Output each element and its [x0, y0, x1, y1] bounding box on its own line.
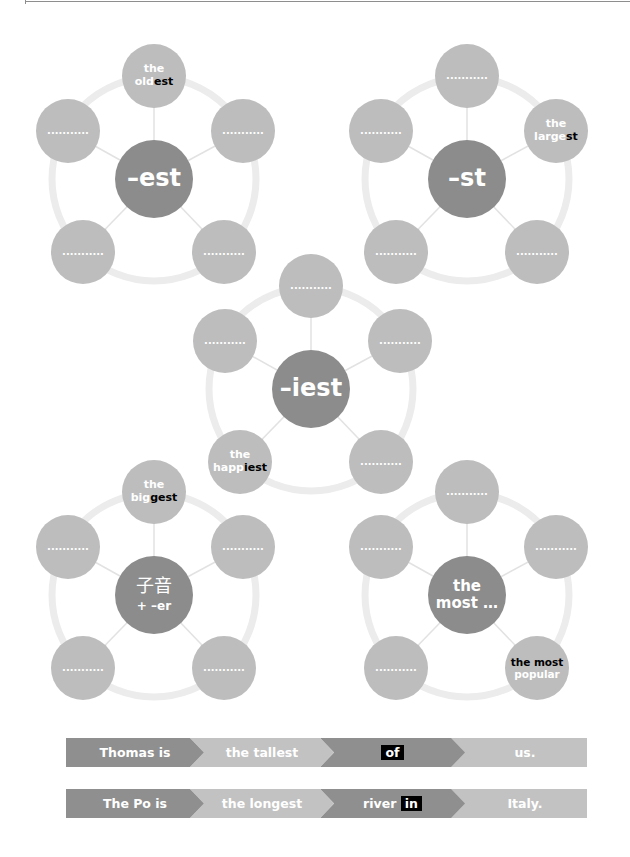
word-suffix: est: [154, 75, 173, 88]
hub-line-1: the: [453, 578, 481, 595]
top-border-line: [25, 1, 630, 2]
segment-preposition: of: [320, 738, 465, 767]
satellite-upper-right-blank[interactable]: ...........: [211, 515, 275, 579]
superlative-text: the longest: [222, 796, 302, 811]
top-border-tick: [25, 0, 26, 4]
hub-consonant-er: 子音 + –er: [115, 556, 193, 634]
hub-st: –st: [428, 140, 506, 218]
example-word: largest: [534, 131, 578, 144]
word-stem: large: [534, 130, 566, 143]
sentence-banner-2: Italy. river in the longest The Po is: [66, 789, 587, 818]
satellite-lower-left-blank[interactable]: ...........: [51, 220, 115, 284]
segment-end: us.: [451, 738, 587, 767]
segment-preposition: river in: [320, 789, 465, 818]
satellite-top-blank[interactable]: ...........: [279, 254, 343, 318]
hub-line-2: most …: [436, 595, 498, 612]
example-word: oldest: [135, 76, 173, 89]
sentence-end: us.: [514, 745, 535, 760]
word-suffix: gest: [150, 491, 177, 504]
segment-end: Italy.: [451, 789, 587, 818]
hub-est: –est: [115, 140, 193, 218]
example-adjective: popular: [514, 668, 560, 680]
superlative-text: the tallest: [226, 745, 299, 760]
satellite-top-blank[interactable]: ...........: [435, 460, 499, 524]
preposition-highlight: in: [401, 796, 422, 811]
segment-superlative: the longest: [190, 789, 334, 818]
sentence-end: Italy.: [507, 796, 542, 811]
satellite-top-example: the biggest: [122, 460, 186, 524]
preposition-highlight: of: [381, 745, 403, 760]
example-the-most: the most: [511, 656, 564, 668]
satellite-lower-right-blank[interactable]: ...........: [505, 220, 569, 284]
satellite-top-blank[interactable]: ...........: [435, 44, 499, 108]
satellite-top-example: the oldest: [122, 44, 186, 108]
satellite-upper-left-blank[interactable]: ...........: [193, 309, 257, 373]
satellite-lower-right-blank[interactable]: ...........: [192, 636, 256, 700]
example-word: biggest: [131, 492, 178, 505]
segment-subject: Thomas is: [66, 738, 204, 767]
segment-subject: The Po is: [66, 789, 204, 818]
satellite-upper-right-example: the largest: [524, 99, 588, 163]
satellite-upper-left-blank[interactable]: ...........: [36, 99, 100, 163]
diagram-the-most: ........... ........... ........... ....…: [337, 465, 597, 725]
satellite-upper-right-blank[interactable]: ...........: [211, 99, 275, 163]
satellite-upper-left-blank[interactable]: ...........: [36, 515, 100, 579]
word-suffix: st: [566, 130, 578, 143]
word-stem: old: [135, 75, 154, 88]
hub-iest: –iest: [272, 350, 350, 428]
sentence-banner-1: us. of the tallest Thomas is: [66, 738, 587, 767]
hub-the-most: the most …: [428, 556, 506, 634]
satellite-lower-left-blank[interactable]: ...........: [51, 636, 115, 700]
word-stem: big: [131, 491, 151, 504]
subject-text: Thomas is: [100, 745, 171, 760]
hub-line-2: + –er: [137, 600, 171, 614]
satellite-upper-right-blank[interactable]: ...........: [368, 309, 432, 373]
satellite-lower-right-example: the most popular: [505, 636, 569, 700]
satellite-upper-left-blank[interactable]: ...........: [349, 99, 413, 163]
satellite-upper-right-blank[interactable]: ...........: [524, 515, 588, 579]
segment-superlative: the tallest: [190, 738, 334, 767]
subject-text: The Po is: [103, 796, 167, 811]
noun-text: river: [363, 796, 396, 811]
hub-line-1: 子音: [136, 576, 172, 597]
satellite-lower-left-blank[interactable]: ...........: [364, 636, 428, 700]
satellite-upper-left-blank[interactable]: ...........: [349, 515, 413, 579]
diagram-consonant-double: the biggest ........... ........... ....…: [24, 465, 284, 725]
